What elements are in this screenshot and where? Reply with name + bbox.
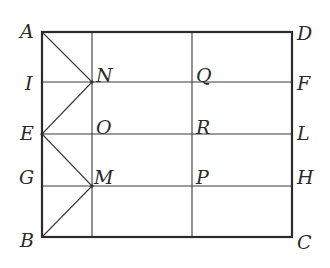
label-Q: Q bbox=[196, 64, 212, 86]
label-P: P bbox=[195, 166, 210, 188]
label-O: O bbox=[96, 116, 112, 138]
point-N-dot bbox=[90, 80, 93, 83]
segment-MB bbox=[42, 186, 92, 237]
label-F: F bbox=[296, 72, 311, 94]
label-A: A bbox=[18, 20, 34, 42]
geometry-diagram: A D I N Q F E O R L G M P H B C bbox=[0, 0, 330, 268]
point-E-dot bbox=[40, 132, 43, 135]
label-C: C bbox=[297, 231, 312, 253]
segment-EM bbox=[42, 134, 92, 186]
label-I: I bbox=[24, 72, 33, 94]
label-E: E bbox=[19, 122, 34, 144]
segment-NE bbox=[42, 82, 92, 134]
label-R: R bbox=[195, 116, 210, 138]
label-H: H bbox=[296, 166, 314, 188]
label-L: L bbox=[296, 122, 310, 144]
label-N: N bbox=[95, 64, 114, 86]
label-G: G bbox=[19, 166, 34, 188]
segment-AN bbox=[42, 32, 92, 82]
label-B: B bbox=[19, 229, 34, 251]
label-D: D bbox=[296, 22, 312, 44]
label-M: M bbox=[93, 166, 114, 188]
